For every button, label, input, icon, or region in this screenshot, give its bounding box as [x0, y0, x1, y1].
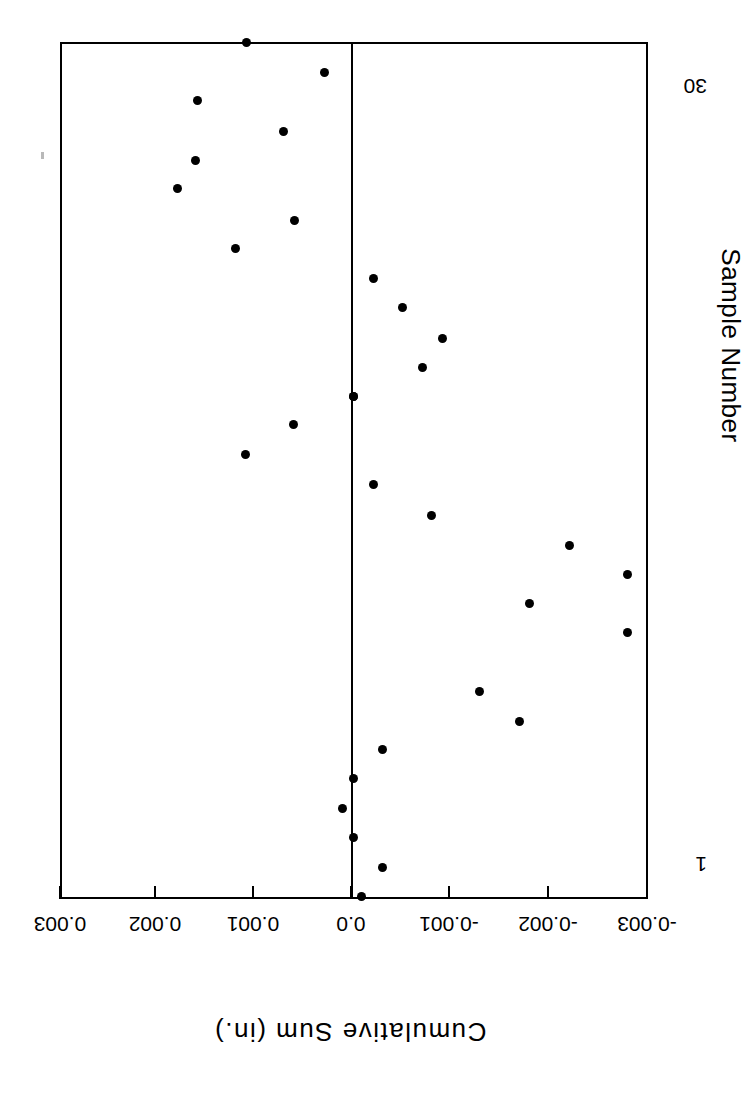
value-axis-tick: [547, 886, 549, 899]
sample-axis-tick-label: 1: [655, 852, 707, 876]
data-point-marker: [565, 541, 574, 550]
data-point-marker: [349, 833, 358, 842]
data-point-marker: [290, 216, 299, 225]
data-point-marker: [525, 599, 534, 608]
sample-axis-tick-label: 30: [655, 74, 707, 98]
data-point-marker: [289, 420, 298, 429]
value-axis-tick-label: -0.001: [409, 912, 489, 936]
value-axis-tick-label: -0.003: [607, 912, 687, 936]
data-point-marker: [320, 68, 329, 77]
value-axis-tick-label: 0.002: [115, 912, 195, 936]
data-point-marker: [242, 38, 251, 47]
value-axis-tick-label: 0.0: [311, 912, 391, 936]
chart-figure: 0.0030.0020.0010.0-0.001-0.002-0.003 130…: [0, 0, 754, 1109]
value-axis-tick-label: 0.001: [213, 912, 293, 936]
data-point-marker: [173, 184, 182, 193]
value-axis-tick-label: -0.002: [508, 912, 588, 936]
data-point-marker: [475, 687, 484, 696]
data-point-marker: [418, 363, 427, 372]
value-axis-tick: [646, 886, 648, 899]
data-point-marker: [378, 863, 387, 872]
scan-artifact-speck: [41, 152, 44, 159]
data-point-marker: [623, 628, 632, 637]
zero-reference-line: [351, 42, 353, 899]
value-axis-tick: [448, 886, 450, 899]
data-point-marker: [349, 774, 358, 783]
data-point-marker: [349, 392, 358, 401]
value-axis-tick: [59, 886, 61, 899]
data-point-marker: [279, 127, 288, 136]
plot-area: [60, 42, 648, 899]
data-point-marker: [378, 745, 387, 754]
data-point-marker: [398, 303, 407, 312]
data-point-marker: [369, 274, 378, 283]
y-axis-title: Cumulative Sum (in.): [110, 1016, 590, 1047]
data-point-marker: [369, 480, 378, 489]
data-point-marker: [357, 892, 366, 901]
value-axis-tick: [350, 886, 352, 899]
data-point-marker: [193, 96, 202, 105]
data-point-marker: [241, 450, 250, 459]
data-point-marker: [623, 570, 632, 579]
data-point-marker: [231, 244, 240, 253]
value-axis-tick: [252, 886, 254, 899]
value-axis-tick-label: 0.003: [20, 912, 100, 936]
data-point-marker: [427, 511, 436, 520]
data-point-marker: [191, 156, 200, 165]
value-axis-tick: [154, 886, 156, 899]
data-point-marker: [515, 717, 524, 726]
x-axis-title: Sample Number: [715, 186, 746, 506]
data-point-marker: [338, 804, 347, 813]
data-point-marker: [438, 334, 447, 343]
